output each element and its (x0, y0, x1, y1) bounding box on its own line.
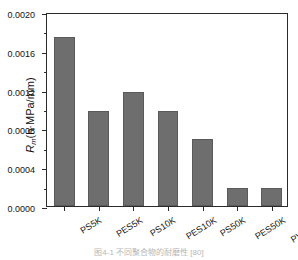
y-axis-tick-label: 0.0000 (7, 204, 35, 214)
x-axis-tick-label: PES5K (114, 215, 144, 239)
y-axis-major-tick: 0.0016 (42, 53, 47, 54)
y-axis-tick-label: 0.0008 (7, 126, 35, 136)
y-axis-tick-label: 0.0004 (7, 165, 35, 175)
plot-area: 0.00000.00040.00080.00120.00160.0020 (46, 13, 288, 207)
y-axis-tick-label: 0.0016 (7, 49, 35, 59)
y-axis-major-tick: 0.0004 (42, 169, 47, 170)
bar (123, 92, 144, 206)
y-axis-minor-tick (44, 111, 47, 112)
bar (192, 139, 213, 206)
x-axis-tick-label: PS10K (149, 215, 178, 238)
x-axis-tick-label: PS5K (79, 215, 104, 236)
bar (158, 111, 179, 206)
figure-container: Rm(h·MPa/mm) 0.00000.00040.00080.00120.0… (0, 0, 298, 260)
x-axis-tick-labels: PS5KPES5KPS10KPES10KPS50KPES50KPVDF50K (46, 207, 288, 247)
y-axis-major-tick: 0.0012 (42, 92, 47, 93)
y-axis-minor-tick (44, 33, 47, 34)
bar (54, 37, 75, 206)
bar (227, 188, 248, 206)
x-axis-tick-label: PES50K (253, 215, 287, 242)
x-axis-tick-label: PS50K (218, 215, 247, 238)
y-axis-minor-tick (44, 72, 47, 73)
y-axis-major-tick: 0.0008 (42, 130, 47, 131)
y-axis-minor-tick (44, 150, 47, 151)
y-axis-subscript: m (29, 138, 38, 144)
y-axis-major-tick: 0.0020 (42, 14, 47, 15)
y-axis-tick-label: 0.0012 (7, 88, 35, 98)
bars-layer (47, 14, 287, 206)
y-axis-tick-label: 0.0020 (7, 10, 35, 20)
x-axis-tick-label: PVDF50K (289, 215, 298, 245)
figure-caption: 图4-1 不同聚合物的耐磨性 [80] (0, 246, 298, 257)
y-axis-symbol: R (24, 145, 36, 153)
x-axis-tick-label: PES10K (184, 215, 218, 242)
bar (261, 188, 282, 206)
bar (88, 111, 109, 206)
y-axis-minor-tick (44, 189, 47, 190)
